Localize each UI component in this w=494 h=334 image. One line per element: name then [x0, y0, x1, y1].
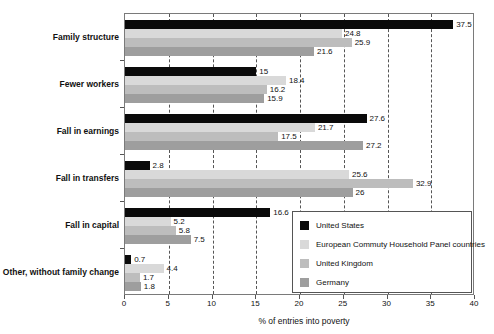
bar-value-label: 18.4: [289, 76, 305, 85]
bar-value-label: 21.6: [317, 47, 333, 56]
bar-value-label: 5.8: [179, 226, 190, 235]
bar-group: 27.621.717.527.2: [125, 108, 473, 155]
bar: [125, 132, 278, 141]
legend-item: Germany: [300, 278, 349, 287]
bar-value-label: 5.2: [174, 217, 185, 226]
x-tick-label: 20: [295, 299, 304, 308]
bar: [125, 38, 352, 47]
legend-label: United Kingdom: [316, 259, 373, 268]
bar-value-label: 1.7: [143, 273, 154, 282]
legend-swatch-icon: [300, 259, 309, 268]
legend-label: United States: [316, 221, 364, 230]
x-tick-label: 40: [470, 299, 479, 308]
x-tick-label: 30: [382, 299, 391, 308]
bar-value-label: 16.2: [270, 85, 286, 94]
bar-chart: Family structureFewer workersFall in ear…: [0, 0, 494, 334]
x-tick-label: 25: [338, 299, 347, 308]
x-tick-label: 35: [426, 299, 435, 308]
bar-value-label: 25.9: [355, 38, 371, 47]
x-axis-title-text: % of entries into poverty: [258, 316, 349, 326]
category-label: Other, without family change: [0, 267, 119, 277]
bar-value-label: 32.9: [416, 179, 432, 188]
bar: [125, 217, 171, 226]
x-tick-label: 5: [166, 299, 170, 308]
bar: [125, 255, 131, 264]
bar-value-label: 1.8: [144, 282, 155, 291]
bar-value-label: 4.4: [167, 264, 178, 273]
bar: [125, 114, 367, 123]
bar: [125, 273, 140, 282]
legend-swatch-icon: [300, 240, 309, 249]
bar-value-label: 24.8: [345, 29, 361, 38]
bar-value-label: 2.8: [153, 161, 164, 170]
bar: [125, 179, 413, 188]
bar-value-label: 27.6: [370, 114, 386, 123]
category-label: Fewer workers: [0, 79, 119, 89]
bar-value-label: 0.7: [134, 255, 145, 264]
bar: [125, 85, 267, 94]
x-tick-label: 0: [122, 299, 126, 308]
bar-value-label: 25.6: [352, 170, 368, 179]
bar-group: 1518.416.215.9: [125, 61, 473, 108]
bar: [125, 123, 315, 132]
bar-group: 2.825.632.926: [125, 155, 473, 202]
legend-label: Germany: [316, 278, 349, 287]
bar: [125, 141, 363, 150]
bar-value-label: 37.5: [456, 20, 472, 29]
bar: [125, 94, 264, 103]
bar: [125, 170, 349, 179]
bar: [125, 188, 353, 197]
legend-item: European Commuty Household Panel countri…: [300, 240, 485, 249]
bar: [125, 264, 164, 273]
x-tick-label: 10: [207, 299, 216, 308]
x-tick-label: 15: [251, 299, 260, 308]
bar-value-label: 15.9: [267, 94, 283, 103]
legend-item: United Kingdom: [300, 259, 373, 268]
bar: [125, 67, 256, 76]
bar: [125, 161, 150, 170]
bar: [125, 29, 342, 38]
bar: [125, 20, 453, 29]
bar-value-label: 15: [259, 67, 268, 76]
bar: [125, 76, 286, 85]
legend-item: United States: [300, 221, 364, 230]
bar: [125, 208, 270, 217]
bar-value-label: 17.5: [281, 132, 297, 141]
bar-value-label: 7.5: [194, 235, 205, 244]
bar: [125, 226, 176, 235]
bar-value-label: 16.6: [273, 208, 289, 217]
bar: [125, 282, 141, 291]
category-label: Fall in capital: [0, 220, 119, 230]
bar-value-label: 26: [356, 188, 365, 197]
legend-swatch-icon: [300, 278, 309, 287]
legend: United StatesEuropean Commuty Household …: [292, 211, 472, 293]
legend-swatch-icon: [300, 221, 309, 230]
legend-label: European Commuty Household Panel countri…: [316, 240, 485, 249]
bar-group: 37.524.825.921.6: [125, 14, 473, 61]
bar-value-label: 27.2: [366, 141, 382, 150]
category-label: Fall in transfers: [0, 173, 119, 183]
category-label: Family structure: [0, 32, 119, 42]
bar: [125, 235, 191, 244]
bar-value-label: 21.7: [318, 123, 334, 132]
category-label: Fall in earnings: [0, 126, 119, 136]
bar: [125, 47, 314, 56]
x-axis-title: % of entries into poverty: [0, 316, 494, 326]
